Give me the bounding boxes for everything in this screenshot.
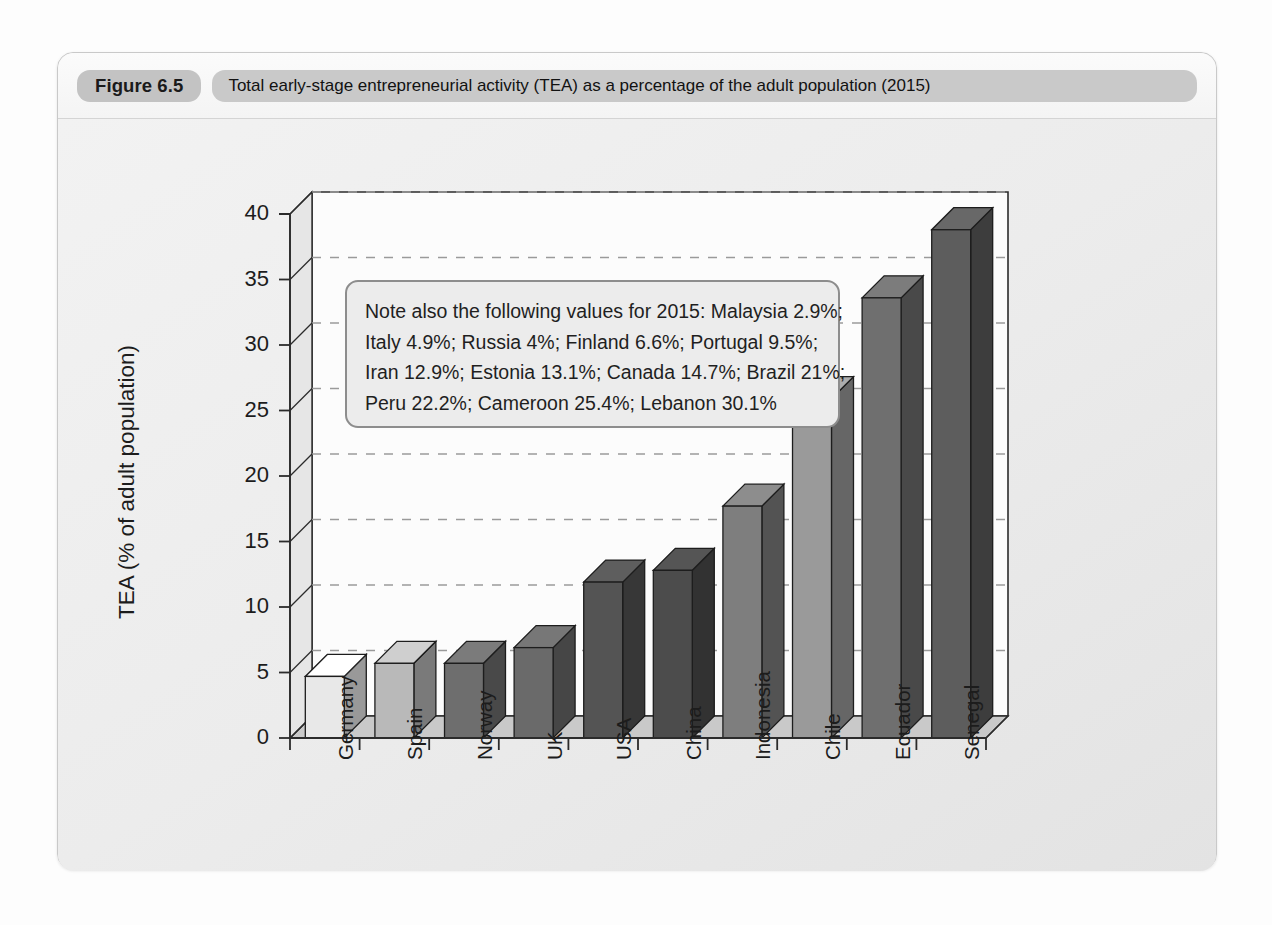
figure-container: Figure 6.5 Total early-stage entrepreneu… [57,52,1217,870]
y-tick-label: 30 [217,331,269,357]
x-tick-label: China [682,706,706,760]
figure-number-label: Figure 6.5 [77,70,201,102]
bar-front [862,298,901,738]
y-tick-label: 35 [217,266,269,292]
note-line: Peru 22.2%; Cameroon 25.4%; Lebanon 30.1… [365,388,820,419]
note-box: Note also the following values for 2015:… [345,280,840,428]
y-tick-label: 5 [217,659,269,685]
note-line: Italy 4.9%; Russia 4%; Finland 6.6%; Por… [365,327,820,358]
bar-front [932,230,971,738]
x-tick-label: Indonesia [751,671,775,760]
bar-side [831,377,853,738]
y-tick-label: 25 [217,397,269,423]
y-tick-label: 20 [217,462,269,488]
note-line: Note also the following values for 2015:… [365,296,820,327]
x-tick-label: Norway [473,691,497,761]
bar-side [901,276,923,738]
bar-side [971,208,993,738]
figure-header: Figure 6.5 Total early-stage entrepreneu… [58,53,1216,119]
chart-plot-area: TEA (% of adult population) 051015202530… [58,119,1216,871]
x-tick-label: Senegal [960,685,984,760]
y-tick-label: 40 [217,200,269,226]
bar-front [584,582,623,738]
bar-chart-svg [58,119,1216,871]
note-line: Iran 12.9%; Estonia 13.1%; Canada 14.7%;… [365,357,820,388]
plot-layer [279,192,1008,750]
x-tick-label: UK [543,732,567,760]
y-tick-label: 15 [217,528,269,554]
y-tick-label: 10 [217,593,269,619]
y-tick-label: 0 [217,724,269,750]
figure-screenshot: Figure 6.5 Total early-stage entrepreneu… [0,0,1272,925]
bar-front [793,399,832,738]
x-tick-label: USA [612,718,636,760]
y-axis-title: TEA (% of adult population) [114,317,140,647]
x-tick-label: Germany [334,676,358,760]
x-tick-label: Chile [821,713,845,760]
bar-front [514,648,553,738]
x-tick-label: Ecuador [891,684,915,760]
figure-caption: Total early-stage entrepreneurial activi… [212,70,1197,102]
bar-side [623,560,645,738]
x-tick-label: Spain [403,708,427,760]
